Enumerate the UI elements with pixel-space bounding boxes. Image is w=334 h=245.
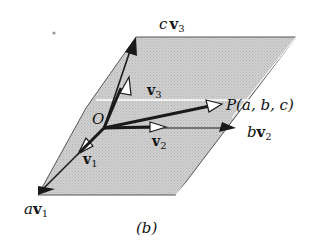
label-a-v1: av1 <box>24 200 48 219</box>
origin-label: O <box>92 110 104 128</box>
parallelepiped-diagram: O P(a, b, c) v3 v2 v1 cv3 bv2 av1 (b) <box>0 0 334 245</box>
stray-dot <box>52 31 55 34</box>
point-P-label: P(a, b, c) <box>225 96 294 114</box>
label-b-v2: bv2 <box>247 123 272 142</box>
label-c-v3: cv3 <box>159 15 185 34</box>
figure-caption: (b) <box>136 219 157 237</box>
